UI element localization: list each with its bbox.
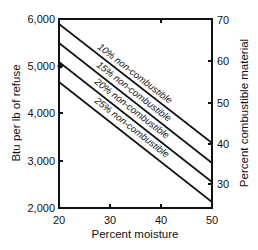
y-axis-label: Btu per lb of refuse [10,64,22,161]
svg-text:3,000: 3,000 [27,155,55,167]
svg-text:50: 50 [206,214,218,226]
chart: 10% non-combustible 15% non-combustible … [0,0,258,250]
svg-text:50: 50 [217,97,229,109]
left-y-tick-labels: 6,000 5,000 4,000 3,000 2,000 [27,13,55,214]
svg-text:70: 70 [217,14,229,26]
svg-text:60: 60 [217,55,229,67]
svg-text:30: 30 [104,214,116,226]
svg-text:5,000: 5,000 [27,60,55,72]
svg-text:40: 40 [155,214,167,226]
svg-text:30: 30 [217,178,229,190]
svg-text:40: 40 [217,138,229,150]
svg-text:4,000: 4,000 [27,107,55,119]
x-axis-label: Percent moisture [92,228,179,240]
svg-text:20: 20 [53,214,65,226]
svg-text:6,000: 6,000 [27,13,55,25]
svg-text:2,000: 2,000 [27,202,55,214]
right-y-tick-labels: 70 60 50 40 30 [217,14,229,190]
y2-axis-label: Percent combustible material [238,39,250,187]
x-tick-labels: 20 30 40 50 [53,214,218,226]
line-25pct [59,82,212,202]
